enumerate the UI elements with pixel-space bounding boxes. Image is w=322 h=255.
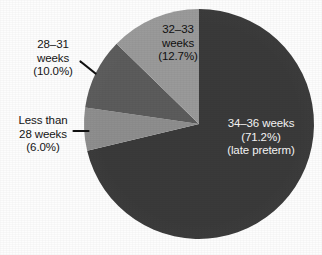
slice-label-less-than-28-weeks-line1: Less than (2, 114, 84, 128)
slice-label-28-31-weeks-line1: 28–31 (10, 38, 96, 52)
slice-label-32-33-weeks-line1: 32–33 (142, 23, 214, 37)
slice-label-34-36-weeks: 34–36 weeks (71.2%) (late preterm) (205, 117, 317, 158)
slice-label-28-31-weeks-line3: (10.0%) (10, 65, 96, 79)
slice-label-28-31-weeks: 28–31 weeks (10.0%) (10, 38, 96, 79)
slice-label-34-36-weeks-line3: (late preterm) (205, 144, 317, 158)
slice-label-32-33-weeks: 32–33 weeks (12.7%) (142, 23, 214, 64)
slice-label-less-than-28-weeks-line2: 28 weeks (2, 128, 84, 142)
slice-label-32-33-weeks-line3: (12.7%) (142, 50, 214, 64)
slice-label-32-33-weeks-line2: weeks (142, 37, 214, 51)
slice-label-less-than-28-weeks: Less than 28 weeks (6.0%) (2, 114, 84, 155)
slice-label-28-31-weeks-line2: weeks (10, 52, 96, 66)
slice-label-less-than-28-weeks-line3: (6.0%) (2, 141, 84, 155)
pie-chart-figure: 32–33 weeks (12.7%) 28–31 weeks (10.0%) … (0, 0, 322, 255)
slice-label-34-36-weeks-line2: (71.2%) (205, 131, 317, 145)
slice-label-34-36-weeks-line1: 34–36 weeks (205, 117, 317, 131)
